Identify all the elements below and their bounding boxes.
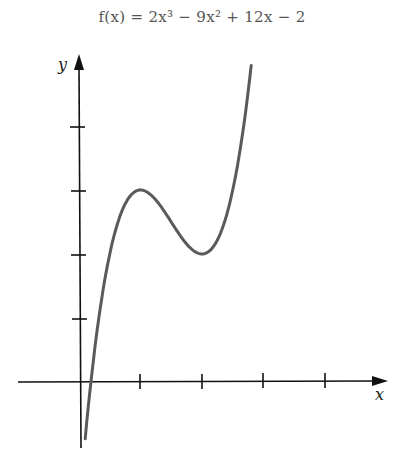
y-axis-arrow-icon — [74, 54, 84, 70]
x-axis-label: x — [375, 385, 384, 404]
y-axis — [79, 66, 81, 448]
y-ticks — [70, 127, 87, 319]
x-axis — [18, 381, 375, 382]
function-curve — [85, 66, 251, 439]
plot-area: y x — [0, 0, 404, 461]
y-axis-label: y — [57, 55, 68, 74]
